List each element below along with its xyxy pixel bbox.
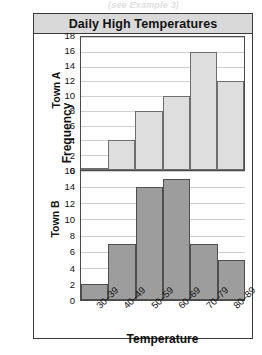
bar — [190, 52, 217, 170]
y-tick-label: 14 — [64, 61, 75, 71]
y-tick-label: 2 — [70, 151, 75, 161]
plot-area-town-b — [80, 171, 245, 301]
y-tick-label: 2 — [70, 280, 75, 290]
bar-slot — [217, 37, 244, 170]
bar-slot — [163, 37, 190, 170]
y-tick-label: 4 — [70, 264, 75, 274]
y-tick-label: 6 — [70, 248, 75, 258]
y-tick-label: 4 — [70, 136, 75, 146]
y-tick-label: 6 — [70, 121, 75, 131]
bar — [217, 81, 244, 170]
bar-slot — [136, 171, 163, 300]
bar-slot — [81, 37, 108, 170]
bar-slot — [218, 171, 245, 300]
y-tick-label: 10 — [64, 215, 75, 225]
y-tick-label: 8 — [70, 106, 75, 116]
y-ticks-town-b: 0246810121416 — [56, 171, 78, 301]
y-tick-label: 16 — [64, 46, 75, 56]
y-ticks-town-a: 024681012141618 — [56, 36, 78, 171]
bar — [136, 187, 163, 300]
bar-slot — [190, 171, 217, 300]
y-tick-label: 16 — [64, 166, 75, 176]
bar-slot — [108, 37, 135, 170]
y-tick-label: 10 — [64, 91, 75, 101]
bar — [135, 111, 162, 170]
panel-town-b: Town B 0246810121416 — [34, 171, 252, 301]
bar-slot — [190, 37, 217, 170]
y-tick-label: 0 — [70, 296, 75, 306]
x-axis-label: Temperature — [80, 332, 245, 346]
bar — [163, 96, 190, 170]
y-tick-label: 14 — [64, 183, 75, 193]
x-axis: Temperature 30–3940–4950–5960–6970–7980–… — [80, 301, 245, 341]
bar-slot — [135, 37, 162, 170]
plot-area-town-a — [80, 36, 245, 171]
y-tick-label: 8 — [70, 231, 75, 241]
bar-slot — [163, 171, 190, 300]
bar-group-town-b — [81, 171, 245, 300]
page-text-fragment: (see Example 3) — [108, 0, 258, 11]
panel-town-a: Town A 024681012141618 — [34, 36, 252, 171]
bar — [108, 140, 135, 170]
bar-group-town-a — [81, 37, 244, 170]
y-tick-label: 12 — [64, 199, 75, 209]
bar-slot — [81, 171, 108, 300]
figure-container: Daily High Temperatures Frequency Town A… — [33, 13, 253, 339]
y-tick-label: 12 — [64, 76, 75, 86]
bar — [81, 168, 108, 170]
bar — [163, 179, 190, 300]
chart-title: Daily High Temperatures — [69, 17, 218, 31]
bar-slot — [108, 171, 135, 300]
y-tick-label: 18 — [64, 31, 75, 41]
